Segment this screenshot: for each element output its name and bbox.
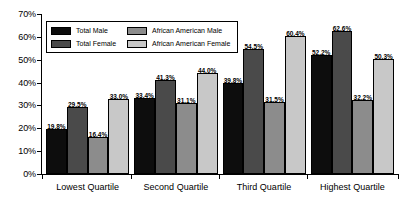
bar[interactable]: 31.5% (264, 102, 285, 174)
bar-value-label: 54.5% (245, 43, 263, 51)
bar[interactable]: 60.4% (285, 36, 306, 174)
y-axis-tick-label: 50% (0, 55, 36, 64)
bar[interactable]: 54.5% (243, 49, 264, 174)
x-axis-category-label: Lowest Quartile (56, 182, 119, 192)
bar-value-label: 33.0% (110, 93, 128, 101)
bar-value-label: 41.3% (156, 74, 174, 82)
legend-swatch (51, 40, 71, 48)
bar-group: 52.2%62.6%32.2%50.3% (311, 14, 394, 174)
bar-value-label: 62.6% (333, 25, 351, 33)
x-axis-category-label: Highest Quartile (320, 182, 385, 192)
bar[interactable]: 16.4% (88, 137, 109, 174)
y-axis-tick-label: 70% (0, 10, 36, 19)
legend-swatch (51, 27, 71, 35)
bar[interactable]: 50.3% (373, 59, 394, 174)
bar[interactable]: 19.8% (46, 129, 67, 174)
y-axis-tick-mark (37, 83, 41, 84)
y-axis-tick-mark (37, 14, 41, 15)
y-axis-tick-label: 10% (0, 147, 36, 156)
x-axis-tick-mark (219, 175, 220, 179)
y-axis-tick-mark (37, 105, 41, 106)
bar-value-label: 60.4% (286, 30, 304, 38)
y-axis-tick-mark (37, 174, 41, 175)
bar-value-label: 19.8% (47, 123, 65, 131)
x-axis-category-label: Second Quartile (144, 182, 209, 192)
bar-value-label: 31.1% (177, 97, 195, 105)
bar-value-label: 44.0% (198, 67, 216, 75)
y-axis-tick-label: 20% (0, 124, 36, 133)
bar[interactable]: 39.8% (223, 83, 244, 174)
legend-label: Total Male (76, 27, 122, 35)
bar[interactable]: 32.2% (352, 100, 373, 174)
y-axis-tick-label: 0% (0, 170, 36, 179)
bar-value-label: 39.8% (224, 77, 242, 85)
y-axis-tick-mark (37, 37, 41, 38)
legend-label: Total Female (76, 40, 122, 48)
bar-chart: 0%10%20%30%40%50%60%70% 19.8%29.5%16.4%3… (0, 0, 411, 216)
y-axis-tick-label: 60% (0, 32, 36, 41)
y-axis-tick-mark (37, 151, 41, 152)
legend-swatch (127, 40, 147, 48)
legend-label: African American Female (152, 40, 232, 48)
bar[interactable]: 33.4% (134, 98, 155, 174)
chart-legend: Total MaleAfrican American MaleTotal Fem… (46, 21, 238, 53)
bar[interactable]: 62.6% (332, 31, 353, 174)
bar[interactable]: 41.3% (155, 80, 176, 174)
bar-value-label: 16.4% (89, 131, 107, 139)
bar[interactable]: 31.1% (176, 103, 197, 174)
y-axis: 0%10%20%30%40%50%60%70% (0, 10, 36, 170)
legend-label: African American Male (152, 27, 232, 35)
y-axis-tick-mark (37, 60, 41, 61)
bar[interactable]: 29.5% (67, 107, 88, 174)
bar-value-label: 31.5% (265, 96, 283, 104)
bar[interactable]: 44.0% (197, 73, 218, 174)
x-axis-category-label: Third Quartile (237, 182, 292, 192)
x-axis-tick-mark (131, 175, 132, 179)
x-axis-tick-mark (42, 175, 43, 179)
bar[interactable]: 33.0% (108, 99, 129, 174)
y-axis-tick-label: 30% (0, 101, 36, 110)
y-axis-tick-mark (37, 128, 41, 129)
bar[interactable]: 52.2% (311, 55, 332, 174)
x-axis-tick-mark (398, 175, 399, 179)
bar-value-label: 32.2% (354, 94, 372, 102)
bar-value-label: 33.4% (135, 92, 153, 100)
x-axis-line (41, 174, 399, 175)
y-axis-tick-label: 40% (0, 78, 36, 87)
bar-value-label: 52.2% (312, 49, 330, 57)
x-axis-tick-mark (307, 175, 308, 179)
bar-value-label: 50.3% (374, 53, 392, 61)
bar-value-label: 29.5% (68, 101, 86, 109)
legend-swatch (127, 27, 147, 35)
